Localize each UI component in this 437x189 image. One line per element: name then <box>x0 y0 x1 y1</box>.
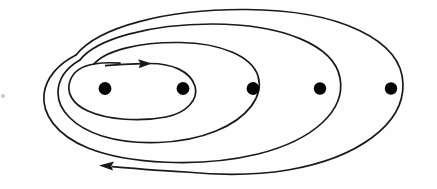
marked-point-1 <box>99 82 112 95</box>
spiral-turn-inner <box>69 63 196 120</box>
inner-arrow-shaft <box>105 64 143 66</box>
spiral-turn-outer <box>44 24 341 163</box>
marked-point-5 <box>385 82 397 94</box>
outer-arrow-shaft <box>112 167 186 172</box>
spiral-diagram-canvas: Spiral curve winding around five marked … <box>0 0 437 189</box>
spiral-curve-group <box>44 9 403 174</box>
spiral-turn-middle <box>58 42 259 142</box>
outer-arrow-head <box>99 162 114 171</box>
scan-speck-artifact <box>1 94 5 98</box>
marked-point-3 <box>247 82 260 95</box>
marked-point-2 <box>177 82 190 95</box>
figure-container: Spiral curve winding around five marked … <box>0 0 437 189</box>
marked-points-group <box>99 82 398 95</box>
marked-point-4 <box>314 82 326 94</box>
spiral-turn-outermost <box>76 9 403 174</box>
inner-direction-arrow <box>105 59 152 68</box>
